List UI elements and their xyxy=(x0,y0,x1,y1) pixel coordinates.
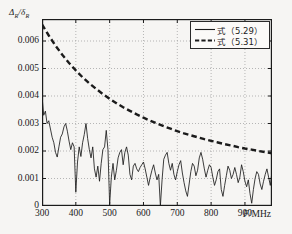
legend-item-1: 式（5.31） xyxy=(194,35,266,46)
y-tick-label: 0.001 xyxy=(18,174,39,184)
legend-label-1: 式（5.31） xyxy=(216,35,263,47)
y-tick-label: 0.002 xyxy=(18,146,39,156)
x-tick-label: 800 xyxy=(204,209,218,219)
legend: 式（5.29） 式（5.31） xyxy=(190,21,270,49)
y-axis-tick-labels: 00.0010.0020.0030.0040.0050.006 xyxy=(0,0,39,234)
y-tick-label: 0.003 xyxy=(18,119,39,129)
x-tick-label: 300 xyxy=(35,209,49,219)
x-tick-label: 700 xyxy=(170,209,184,219)
chart-figure: ΔR/δR 00.0010.0020.0030.0040.0050.006 30… xyxy=(0,0,292,234)
x-tick-label: 500 xyxy=(103,209,117,219)
x-tick-label: 600 xyxy=(136,209,150,219)
x-axis-label: F/MHz xyxy=(243,209,271,219)
y-tick-label: 0.006 xyxy=(18,36,39,46)
data-series-layer xyxy=(42,25,272,207)
y-tick-label: 0.004 xyxy=(18,91,39,101)
x-tick-label: 400 xyxy=(69,209,83,219)
legend-swatch-solid-line-icon xyxy=(194,25,216,34)
x-axis-label-unit: /MHz xyxy=(249,209,271,219)
legend-item-0: 式（5.29） xyxy=(194,24,266,35)
legend-swatch-dashed-line-icon xyxy=(194,36,216,45)
y-tick-label: 0.005 xyxy=(18,64,39,74)
